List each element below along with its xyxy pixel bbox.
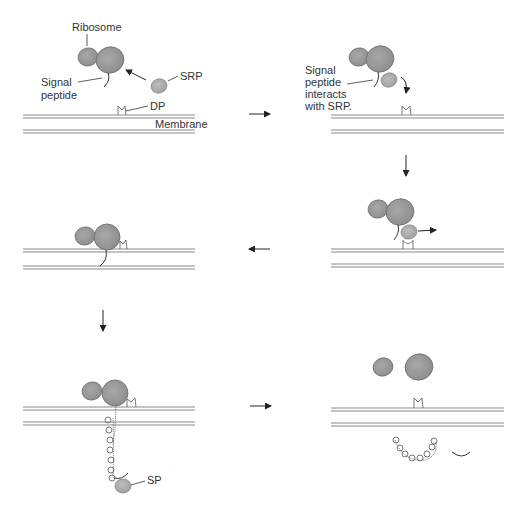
srp bbox=[149, 77, 169, 96]
signal-peptide-label-1: Signal bbox=[41, 76, 72, 88]
ribosome-small-subunit bbox=[371, 355, 396, 379]
membrane bbox=[331, 249, 504, 267]
signal-peptide-label-2: peptide bbox=[41, 89, 77, 101]
panel-1: Ribosome Signal peptide SRP DP Membrane bbox=[23, 21, 208, 133]
ribosome-label: Ribosome bbox=[72, 21, 122, 33]
membrane bbox=[331, 115, 504, 133]
dp-receptor bbox=[402, 106, 411, 115]
srp-label: SRP bbox=[180, 70, 203, 82]
dp-receptor bbox=[414, 398, 423, 408]
signal-peptide bbox=[104, 73, 109, 87]
cleaved-signal-peptide bbox=[114, 473, 128, 478]
dp-receptor bbox=[120, 240, 127, 249]
srp bbox=[399, 223, 418, 241]
membrane bbox=[23, 407, 195, 425]
folded-protein bbox=[393, 437, 437, 461]
dp-receptor bbox=[403, 240, 413, 249]
ribosome bbox=[347, 42, 398, 76]
ribosome bbox=[366, 195, 418, 229]
panel-3 bbox=[23, 220, 195, 269]
membrane-label: Membrane bbox=[155, 118, 208, 130]
signal-peptide bbox=[394, 225, 399, 240]
dp-label: DP bbox=[150, 100, 165, 112]
nascent-polypeptide bbox=[105, 405, 116, 481]
interaction-label-1: Signal bbox=[305, 64, 336, 76]
panel-5: SP bbox=[23, 376, 195, 493]
dp-receptor bbox=[127, 398, 136, 407]
signal-peptidase bbox=[115, 479, 131, 493]
interaction-label-3: interacts bbox=[305, 88, 347, 100]
diagram-canvas: Ribosome Signal peptide SRP DP Membrane … bbox=[0, 0, 531, 506]
membrane bbox=[331, 408, 504, 426]
panel-6 bbox=[331, 350, 504, 461]
signal-peptide bbox=[374, 72, 379, 87]
ribosome-large-subunit bbox=[401, 350, 436, 384]
ribosome bbox=[76, 43, 128, 77]
binding-arrow bbox=[126, 70, 146, 80]
ribosome bbox=[80, 376, 132, 409]
membrane bbox=[23, 249, 195, 269]
srp bbox=[379, 71, 399, 90]
interaction-label-2: peptide bbox=[305, 76, 341, 88]
interaction-label-4: with SRP. bbox=[304, 100, 352, 112]
approach-arrow bbox=[401, 77, 406, 93]
panel-4 bbox=[331, 195, 504, 267]
panel-2: Signal peptide interacts with SRP. bbox=[304, 42, 504, 133]
sp-label: SP bbox=[147, 474, 162, 486]
release-arrow bbox=[418, 230, 436, 231]
cleaved-signal-peptide bbox=[452, 452, 470, 456]
dp-receptor bbox=[118, 106, 126, 115]
